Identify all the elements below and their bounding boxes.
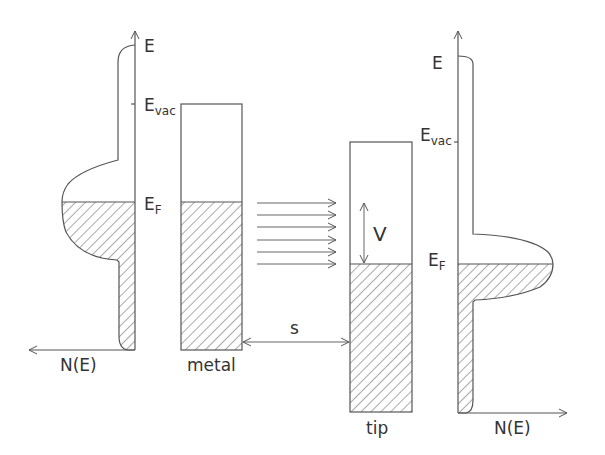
left-vacuum-level-label: Evac — [144, 97, 176, 117]
left-dos-axis-label: N(E) — [60, 357, 97, 374]
right-energy-axis-label: E — [432, 55, 443, 72]
right-vacuum-label-main: E — [420, 125, 431, 145]
left-fermi-level-label: EF — [144, 196, 162, 216]
metal-filled-region — [181, 202, 242, 350]
tip-block — [350, 142, 412, 412]
energy-diagram — [0, 0, 605, 455]
right-vacuum-level-label: Evac — [420, 127, 452, 147]
tip-label: tip — [366, 420, 388, 437]
right-fermi-level-label: EF — [428, 252, 446, 272]
left-dos-panel — [29, 31, 135, 350]
left-vacuum-label-sub: vac — [155, 104, 176, 118]
metal-block — [181, 104, 242, 350]
left-vacuum-label-main: E — [144, 95, 155, 115]
right-fermi-label-sub: F — [439, 259, 446, 273]
left-fermi-label-sub: F — [155, 203, 162, 217]
gap-label: s — [290, 320, 299, 337]
right-vacuum-label-sub: vac — [431, 134, 452, 148]
left-dos-filled-region — [62, 202, 135, 350]
tip-filled-region — [350, 264, 412, 412]
left-energy-axis-label: E — [144, 38, 155, 55]
right-fermi-label-main: E — [428, 250, 439, 270]
bias-label: V — [373, 224, 387, 244]
right-dos-axis-label: N(E) — [494, 420, 531, 437]
right-dos-filled-region — [458, 264, 553, 413]
tunneling-arrows — [257, 203, 336, 264]
metal-label: metal — [187, 357, 236, 374]
left-fermi-label-main: E — [144, 194, 155, 214]
right-dos-panel — [454, 31, 567, 413]
